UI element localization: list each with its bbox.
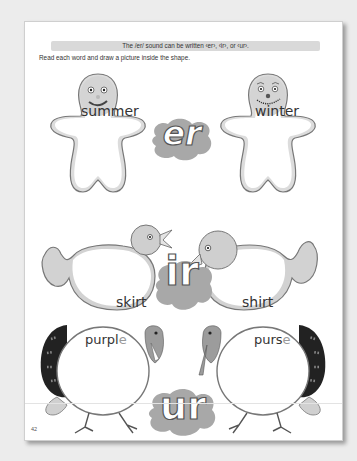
word-skirt: skirt [116,294,147,310]
sound-er: er [153,114,211,153]
instruction-text: Read each word and draw a picture inside… [39,54,190,61]
word-shirt: shirt [242,294,273,310]
sound-ur: ur [153,384,213,428]
word-purse-main: purs [254,332,283,347]
divider [25,403,342,404]
header-bar: The /er/ sound can be written ‹er›, ‹ir›… [51,41,320,51]
word-summer: summer [81,103,139,119]
word-purse-silent-e: e [283,332,291,347]
word-purple-main: purpl [85,332,119,347]
page-number: 42 [31,426,37,432]
worksheet-page: The /er/ sound can be written ‹er›, ‹ir›… [24,21,343,441]
word-purple: purple [85,332,127,347]
bird-left-icon[interactable] [39,226,169,321]
word-winter: winter [255,103,299,119]
sound-ir: ir [153,248,211,294]
gingerbread-man-right-icon[interactable] [213,70,323,198]
word-purple-silent-e: e [119,332,127,347]
gingerbread-man-left-icon[interactable] [43,70,153,198]
word-purse: purse [254,332,291,347]
